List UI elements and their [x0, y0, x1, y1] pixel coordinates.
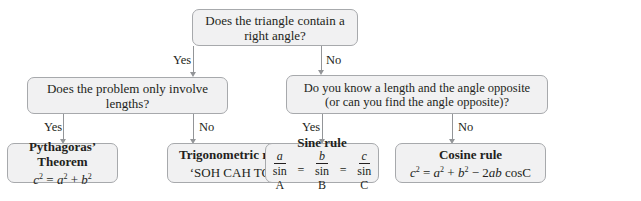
connector-root-yes: [193, 46, 194, 73]
label-left-no: No: [199, 120, 214, 135]
pythagoras-formula: c2 = a2 + b2: [33, 172, 91, 187]
label-right-no: No: [458, 120, 473, 135]
right-question-line2: (or can you find the angle opposite)?: [325, 95, 509, 109]
root-question-box: Does the triangle contain a right angle?: [192, 9, 358, 46]
connector-right-no: [452, 114, 453, 141]
cosine-rule-title: Cosine rule: [439, 147, 502, 162]
connector-root-no: [321, 46, 322, 71]
left-question-box: Does the problem only involve lengths?: [27, 77, 228, 114]
right-question-box: Do you know a length and the angle oppos…: [286, 75, 548, 114]
connector-left-no: [193, 114, 194, 141]
label-left-yes: Yes: [44, 120, 62, 135]
label-right-yes: Yes: [302, 120, 320, 135]
sine-rule-box: Sine rule asin A = bsin B = csin C: [265, 143, 379, 183]
left-question-text: Does the problem only involve lengths?: [28, 81, 227, 111]
cosine-rule-formula: c2 = a2 + b2 − 2ab cosC: [410, 165, 531, 180]
sine-rule-title: Sine rule: [297, 135, 346, 150]
root-question-text: Does the triangle contain a right angle?: [193, 13, 357, 43]
cosine-rule-box: Cosine rule c2 = a2 + b2 − 2ab cosC: [395, 143, 546, 183]
pythagoras-box: Pythagoras’ Theorem c2 = a2 + b2: [7, 143, 118, 183]
pythagoras-title: Pythagoras’ Theorem: [8, 139, 117, 169]
sine-rule-formula: asin A = bsin B = csin C: [266, 150, 378, 192]
right-question-line1: Do you know a length and the angle oppos…: [304, 81, 530, 95]
connector-left-yes: [63, 114, 64, 141]
label-root-yes: Yes: [173, 53, 191, 68]
label-root-no: No: [326, 53, 341, 68]
